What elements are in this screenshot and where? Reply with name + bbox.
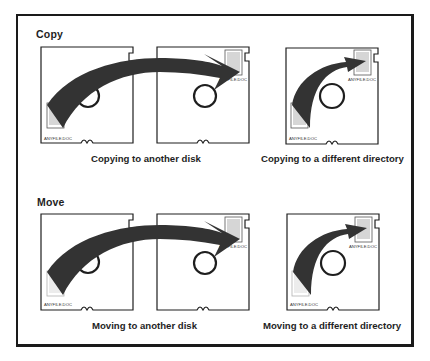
section-label-copy: Copy xyxy=(36,28,63,40)
file-label: ANYFILE.DOC xyxy=(348,77,376,82)
file-label: ANYFILE.DOC xyxy=(219,244,247,249)
file-label: ANYFILE.DOC xyxy=(44,136,72,141)
file-label: ANYFILE.DOC xyxy=(219,77,247,82)
caption-copy-another-disk: Copying to another disk xyxy=(91,153,201,164)
copy-panel-different-directory xyxy=(286,48,378,144)
copy-panel-another-disk xyxy=(41,47,249,143)
move-panel-different-directory xyxy=(287,214,379,310)
caption-copy-different-directory: Copying to a different directory xyxy=(261,153,404,164)
caption-move-different-directory: Moving to a different directory xyxy=(263,320,401,331)
section-label-move: Move xyxy=(37,196,65,208)
diagram-art: ANYFILE.DOC ANYFILE.DOC ANYFILE.DOC ANYF… xyxy=(0,0,430,361)
move-panel-another-disk xyxy=(41,214,249,310)
file-label: ANYFILE.DOC xyxy=(289,136,317,141)
file-label: ANYFILE.DOC xyxy=(44,302,72,307)
caption-move-another-disk: Moving to another disk xyxy=(92,320,197,331)
file-label: ANYFILE.DOC xyxy=(290,302,318,307)
file-label: ANYFILE.DOC xyxy=(349,244,377,249)
